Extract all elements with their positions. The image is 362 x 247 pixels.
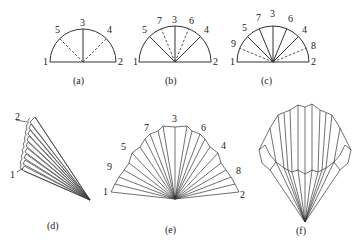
label-4: 4 <box>204 24 209 35</box>
label-2: 2 <box>240 189 245 200</box>
fold-line-6 <box>273 29 287 62</box>
label-4: 4 <box>302 24 307 35</box>
label-2: 2 <box>311 56 316 67</box>
pleated-cone <box>259 104 351 222</box>
caption-b: (b) <box>165 75 177 87</box>
filter-paper-folding-diagram: 1 2 3 4 5 (a) 1 2 3 4 5 6 7 (b) 1 2 3 4 <box>0 0 362 247</box>
caption-c: (c) <box>261 75 272 87</box>
label-9: 9 <box>107 161 112 172</box>
label-3: 3 <box>172 14 177 25</box>
label-6: 6 <box>201 122 206 133</box>
panel-a: 1 2 3 4 5 (a) <box>43 17 123 87</box>
label-7: 7 <box>256 12 261 23</box>
label-1: 1 <box>230 56 235 67</box>
caption-d: (d) <box>47 220 59 232</box>
label-2: 2 <box>118 56 123 67</box>
label-2: 2 <box>213 56 218 67</box>
label-9: 9 <box>231 38 236 49</box>
panel-b: 1 2 3 4 5 6 7 (b) <box>133 14 218 87</box>
label-7: 7 <box>144 122 149 133</box>
label-4: 4 <box>107 24 112 35</box>
label-6: 6 <box>189 15 194 26</box>
label-1: 1 <box>43 56 48 67</box>
label-7: 7 <box>157 15 162 26</box>
label-8: 8 <box>236 165 241 176</box>
label-5: 5 <box>55 24 60 35</box>
label-5: 5 <box>242 22 247 33</box>
fold-line-5 <box>150 37 176 63</box>
label-4: 4 <box>221 140 226 151</box>
label-5: 5 <box>121 141 126 152</box>
fold-line-6 <box>175 29 189 62</box>
caption-a: (a) <box>73 75 84 87</box>
panel-c: 1 2 3 4 5 6 7 8 9 (c) <box>230 8 316 87</box>
panel-d: 2 1 (d) <box>10 111 90 232</box>
label-5: 5 <box>142 24 147 35</box>
panel-f: (f) <box>259 104 351 237</box>
caption-e: (e) <box>165 224 176 236</box>
panel-e: 1 9 5 7 3 6 4 8 2 (e) <box>103 113 245 236</box>
fold-line-4 <box>83 39 106 62</box>
fold-line-4 <box>175 37 201 63</box>
fold-line-5 <box>60 39 83 62</box>
label-1: 1 <box>133 56 138 67</box>
fold-line-7 <box>161 29 175 62</box>
fold-line-5 <box>248 37 274 63</box>
label-1: 1 <box>103 186 108 197</box>
label-8: 8 <box>311 40 316 51</box>
folded-stack <box>20 117 90 200</box>
caption-f: (f) <box>296 225 306 237</box>
fold-line-4 <box>273 37 299 63</box>
label-1: 1 <box>10 169 15 180</box>
label-3: 3 <box>172 113 177 124</box>
label-3: 3 <box>80 17 85 28</box>
fold-line-7 <box>259 29 273 62</box>
label-2: 2 <box>15 111 20 122</box>
label-6: 6 <box>288 13 293 24</box>
label-3: 3 <box>270 8 275 19</box>
pleated-fan <box>111 126 239 199</box>
